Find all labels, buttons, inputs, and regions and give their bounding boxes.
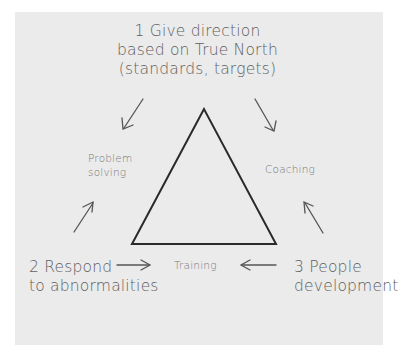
label-problem-solving: Problem solving <box>88 151 132 179</box>
arrow-from-development-to-coaching <box>304 202 323 233</box>
label-coaching: Coaching <box>265 162 315 176</box>
label-line: 3 People <box>294 258 398 277</box>
arrow-development-to-training <box>241 260 276 270</box>
label-line: Coaching <box>265 162 315 176</box>
label-line: 2 Respond <box>29 258 159 277</box>
arrow-to-problem-solving <box>122 99 143 129</box>
arrow-to-coaching <box>255 99 276 131</box>
label-line: Problem <box>88 151 132 165</box>
label-line: development <box>294 277 398 296</box>
label-people-development: 3 People development <box>294 258 398 296</box>
label-line: 1 Give direction <box>0 22 395 41</box>
label-line: based on True North <box>0 41 395 60</box>
label-line: solving <box>88 165 132 179</box>
label-give-direction: 1 Give direction based on True North (st… <box>0 22 395 79</box>
label-line: (standards, targets) <box>0 60 395 79</box>
label-training: Training <box>174 258 217 272</box>
arrow-from-respond-to-problem-solving <box>74 202 93 232</box>
label-respond-to-abnormalities: 2 Respond to abnormalities <box>29 258 159 296</box>
label-line: to abnormalities <box>29 277 159 296</box>
label-line: Training <box>174 258 217 272</box>
triangle-shape <box>132 109 276 244</box>
